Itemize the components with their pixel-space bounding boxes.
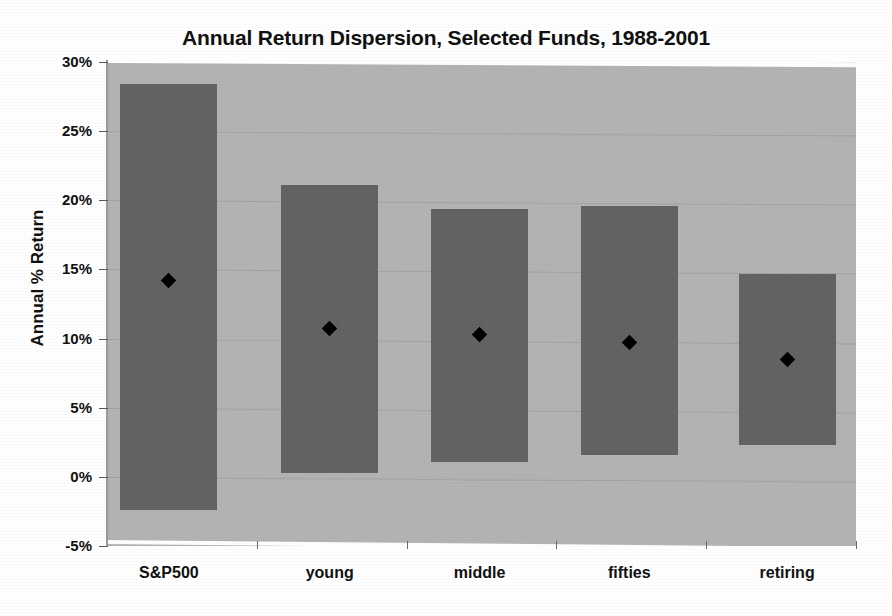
x-tick-mark bbox=[856, 541, 857, 549]
chart-container: Annual Return Dispersion, Selected Funds… bbox=[0, 0, 892, 616]
y-tick-mark bbox=[99, 477, 108, 478]
y-axis-line bbox=[106, 60, 108, 546]
y-tick-label-text: 10% bbox=[32, 330, 92, 347]
range-bar bbox=[120, 84, 217, 510]
y-tick-mark bbox=[99, 200, 108, 201]
y-tick-label: 0% bbox=[30, 468, 92, 486]
x-axis-label-s-p500: S&P500 bbox=[94, 564, 244, 582]
x-tick-mark bbox=[556, 541, 557, 549]
x-tick-mark bbox=[257, 541, 258, 549]
chart-title: Annual Return Dispersion, Selected Funds… bbox=[0, 26, 892, 50]
y-tick-label: 5% bbox=[30, 399, 92, 417]
y-tick-label-text: 25% bbox=[32, 122, 92, 139]
y-tick-label-text: 15% bbox=[32, 260, 92, 277]
y-tick-label-text: 30% bbox=[32, 53, 92, 70]
y-tick-label-text: 5% bbox=[32, 399, 92, 416]
x-axis-label-young: young bbox=[255, 564, 405, 582]
y-tick-label: 15% bbox=[30, 260, 92, 278]
y-tick-label-text: 20% bbox=[32, 191, 92, 208]
y-tick-label-text: -5% bbox=[32, 537, 92, 554]
x-tick-mark bbox=[407, 541, 408, 549]
x-axis-label-fifties: fifties bbox=[554, 564, 704, 582]
y-tick-label: 30% bbox=[30, 53, 92, 71]
x-axis-label-retiring: retiring bbox=[712, 564, 862, 582]
x-tick-mark bbox=[706, 541, 707, 549]
x-axis-label-middle: middle bbox=[405, 564, 555, 582]
range-bar bbox=[581, 206, 678, 455]
y-tick-label: 25% bbox=[30, 122, 92, 140]
y-tick-label: 20% bbox=[30, 191, 92, 209]
y-tick-mark bbox=[99, 408, 108, 409]
y-tick-mark bbox=[99, 546, 108, 547]
y-tick-mark bbox=[99, 62, 108, 63]
y-tick-label: 10% bbox=[30, 330, 92, 348]
y-tick-mark bbox=[99, 131, 108, 132]
y-tick-mark bbox=[99, 269, 108, 270]
y-tick-label-text: 0% bbox=[32, 468, 92, 485]
y-tick-label: -5% bbox=[30, 537, 92, 555]
y-tick-mark bbox=[99, 339, 108, 340]
